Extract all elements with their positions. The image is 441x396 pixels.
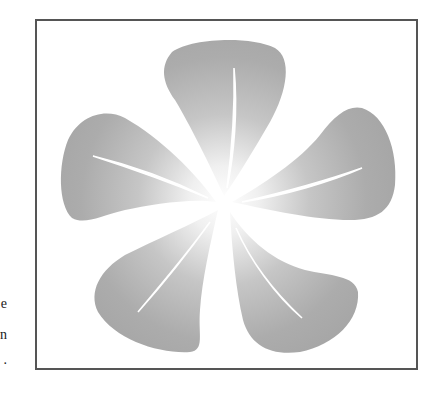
flower-illustration bbox=[0, 0, 441, 396]
clipped-margin-text: n bbox=[0, 328, 7, 342]
petal-bottom-left bbox=[94, 210, 218, 352]
petal-bottom-right bbox=[230, 212, 358, 353]
clipped-margin-text: e bbox=[0, 297, 7, 311]
clipped-margin-text: . bbox=[0, 353, 7, 367]
